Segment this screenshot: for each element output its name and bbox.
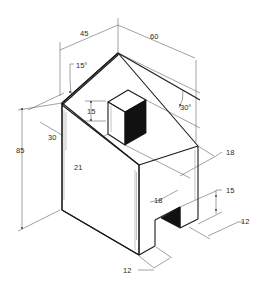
dim-cube-15: 15 xyxy=(87,107,95,116)
notch-shadow xyxy=(161,207,180,228)
house-block xyxy=(62,53,200,255)
dim-60: 60 xyxy=(150,32,158,41)
dim-18-lower: 18 xyxy=(154,196,162,205)
left-wall xyxy=(62,53,139,255)
dim-30: 30 xyxy=(48,133,56,142)
roof-cube xyxy=(108,90,146,145)
dim-notch-12: 12 xyxy=(241,217,249,226)
dim-18-upper: 18 xyxy=(226,148,234,157)
dim-angle-30: 30° xyxy=(180,103,191,112)
dim-45: 45 xyxy=(80,29,88,38)
isometric-drawing: 45 60 15° 30° 85 30 21 15 18 18 15 12 12 xyxy=(0,0,260,291)
dim-angle-15: 15° xyxy=(76,61,87,70)
dim-21: 21 xyxy=(74,163,82,172)
dim-85: 85 xyxy=(16,146,24,155)
dim-bottom-12: 12 xyxy=(123,266,131,275)
dim-notch-15: 15 xyxy=(226,186,234,195)
